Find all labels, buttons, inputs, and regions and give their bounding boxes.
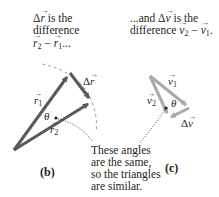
annotation-line3: so the triangles bbox=[91, 168, 161, 180]
var-r2: r bbox=[33, 37, 37, 49]
var-r: r bbox=[40, 12, 44, 24]
label-v1: v1 bbox=[168, 76, 177, 90]
v1-var: v bbox=[168, 76, 173, 87]
caption-c-line1: ...and Δv is the bbox=[130, 12, 198, 24]
caption-b-line3: r2 − r1... bbox=[33, 37, 71, 53]
caption-pre: ...and Δ bbox=[130, 12, 166, 24]
annotation-line2: are the same, bbox=[91, 156, 151, 168]
var-r1: r bbox=[54, 37, 58, 49]
panel-label-c: (c) bbox=[165, 161, 178, 176]
caption-b-line1: Δr is the bbox=[33, 12, 72, 24]
label-theta-b: θ bbox=[44, 111, 49, 122]
delta-sym: Δ bbox=[83, 75, 90, 87]
period: . bbox=[210, 24, 213, 36]
v2-var: v bbox=[147, 95, 152, 106]
panel-label-b: (b) bbox=[40, 165, 55, 180]
ellipsis: ... bbox=[62, 37, 71, 49]
minus-op: − bbox=[188, 24, 200, 36]
dv-var: v bbox=[188, 118, 193, 129]
caption-c-line2: difference v2 − v1. bbox=[130, 24, 213, 40]
dr-var: r bbox=[90, 76, 94, 87]
caption-pre: difference bbox=[130, 24, 179, 36]
vector-delta-v-arrow bbox=[171, 108, 189, 117]
leader-line-b bbox=[58, 119, 92, 141]
label-r1: r1 bbox=[34, 95, 42, 109]
var-v2: v bbox=[179, 24, 184, 36]
label-r2: r2 bbox=[50, 124, 58, 138]
minus-op: − bbox=[41, 37, 53, 49]
r2-var: r bbox=[50, 124, 54, 135]
leader-line-c bbox=[140, 110, 165, 143]
r1-sub: 1 bbox=[38, 99, 42, 108]
angle-marker-c bbox=[164, 106, 167, 109]
v2-sub: 2 bbox=[152, 99, 156, 108]
r2-sub: 2 bbox=[54, 128, 58, 137]
v1-sub: 1 bbox=[173, 80, 177, 89]
annotation-line4: are similar. bbox=[91, 180, 142, 192]
caption-text: is the bbox=[45, 12, 72, 24]
delta-symbol: Δ bbox=[33, 12, 40, 24]
var-v: v bbox=[166, 12, 171, 24]
label-delta-r: Δr bbox=[83, 76, 94, 87]
label-v2: v2 bbox=[147, 95, 156, 109]
label-theta-c: θ bbox=[171, 98, 176, 109]
delta-sym: Δ bbox=[181, 117, 188, 129]
r1-var: r bbox=[34, 95, 38, 106]
var-v1: v bbox=[201, 24, 206, 36]
label-delta-v: Δv bbox=[181, 118, 193, 129]
annotation-line1: These angles bbox=[91, 144, 151, 156]
